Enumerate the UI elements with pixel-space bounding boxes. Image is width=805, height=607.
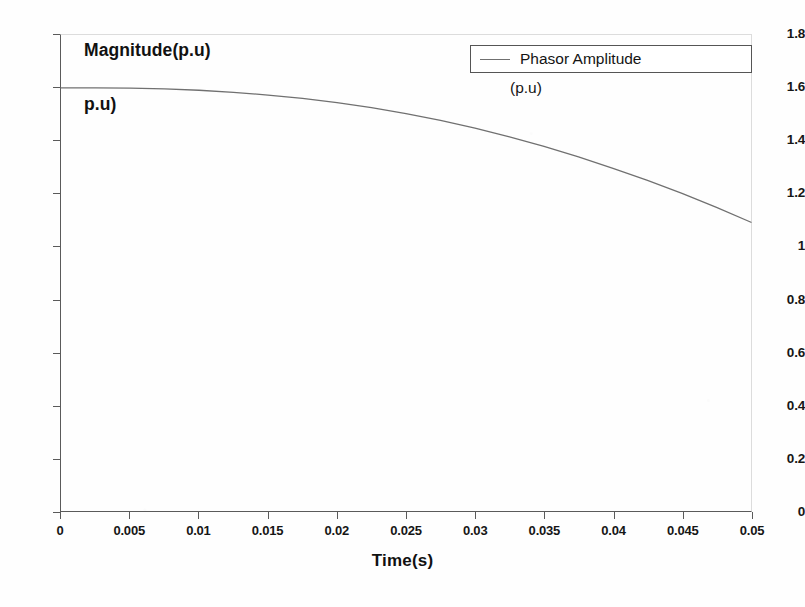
legend-label: Phasor Amplitude — [520, 50, 642, 68]
phasor-amplitude-curve — [61, 88, 751, 222]
y-tick-label: 1.8 — [761, 27, 805, 41]
x-tick-label: 0.01 — [186, 524, 211, 537]
y-tick-label: 0.2 — [761, 452, 805, 466]
legend[interactable]: Phasor Amplitude — [470, 45, 752, 73]
plot-area — [60, 34, 752, 512]
x-tick-mark — [683, 512, 684, 519]
x-tick-label: 0.03 — [463, 524, 488, 537]
x-tick-label: 0.025 — [390, 524, 422, 537]
chart-figure: 00.20.40.60.811.21.41.61.8 00.0050.010.0… — [0, 0, 805, 607]
x-tick-mark — [268, 512, 269, 519]
x-tick-label: 0.035 — [529, 524, 561, 537]
x-tick-mark — [406, 512, 407, 519]
x-tick-mark — [198, 512, 199, 519]
x-tick-mark — [614, 512, 615, 519]
x-tick-mark — [475, 512, 476, 519]
legend-line-swatch — [480, 59, 510, 60]
data-curve-svg — [61, 35, 751, 511]
x-tick-label: 0.015 — [252, 524, 284, 537]
legend-sublabel: (p.u) — [510, 79, 542, 97]
y-tick-label: 1.2 — [761, 186, 805, 200]
y-tick-label: 0 — [761, 505, 805, 519]
y-axis-title: Magnitude(p.u) — [84, 40, 211, 61]
x-tick-label: 0.005 — [113, 524, 145, 537]
y-tick-label: 0.6 — [761, 346, 805, 360]
y-tick-label: 1.6 — [761, 80, 805, 94]
x-axis-title: Time(s) — [0, 551, 805, 571]
y-axis-title-second-line: p.u) — [84, 94, 116, 115]
x-tick-label: 0.05 — [740, 524, 765, 537]
x-tick-mark — [337, 512, 338, 519]
y-tick-label: 0.4 — [761, 399, 805, 413]
y-tick-label: 1 — [761, 239, 805, 253]
x-tick-mark — [60, 512, 61, 519]
x-tick-label: 0.045 — [667, 524, 699, 537]
x-tick-mark — [752, 512, 753, 519]
x-tick-label: 0.02 — [325, 524, 350, 537]
y-tick-label: 0.8 — [761, 293, 805, 307]
x-tick-mark — [129, 512, 130, 519]
x-tick-label: 0 — [56, 524, 63, 537]
y-tick-label: 1.4 — [761, 133, 805, 147]
x-tick-label: 0.04 — [601, 524, 626, 537]
x-tick-mark — [544, 512, 545, 519]
